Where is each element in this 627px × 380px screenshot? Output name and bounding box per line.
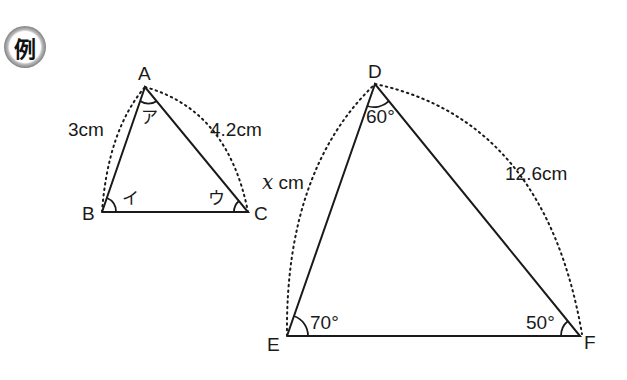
vertex-a-label: A	[138, 64, 151, 83]
vertex-f-label: F	[584, 333, 596, 352]
angle-mark-b	[107, 198, 116, 212]
vertex-e-label: E	[267, 335, 280, 354]
angle-d-label: 60°	[366, 107, 395, 126]
angle-mark-a	[140, 101, 157, 104]
side-df-label: 12.6cm	[505, 164, 567, 183]
angle-e-label: 70°	[310, 313, 339, 332]
side-ab-label: 3cm	[68, 120, 104, 139]
angle-mark-c	[234, 201, 239, 212]
vertex-b-label: B	[82, 204, 95, 223]
side-de-unit: cm	[279, 172, 304, 193]
figure-similar-triangles: 例 A B C ア イ ウ 3cm 4.2cm D E F	[0, 0, 627, 380]
vertex-d-label: D	[368, 62, 382, 81]
side-ac-label: 4.2cm	[210, 120, 262, 139]
angle-f-label: 50°	[526, 313, 555, 332]
vertex-c-label: C	[254, 204, 268, 223]
angle-c-label: ウ	[208, 190, 225, 207]
angle-mark-e	[294, 316, 308, 336]
angle-mark-f	[561, 321, 568, 336]
angle-b-label: イ	[122, 190, 139, 207]
side-de-label: x cm	[262, 172, 304, 192]
angle-a-label: ア	[141, 109, 158, 126]
variable-x: x	[262, 170, 273, 194]
triangle-def	[287, 84, 582, 336]
